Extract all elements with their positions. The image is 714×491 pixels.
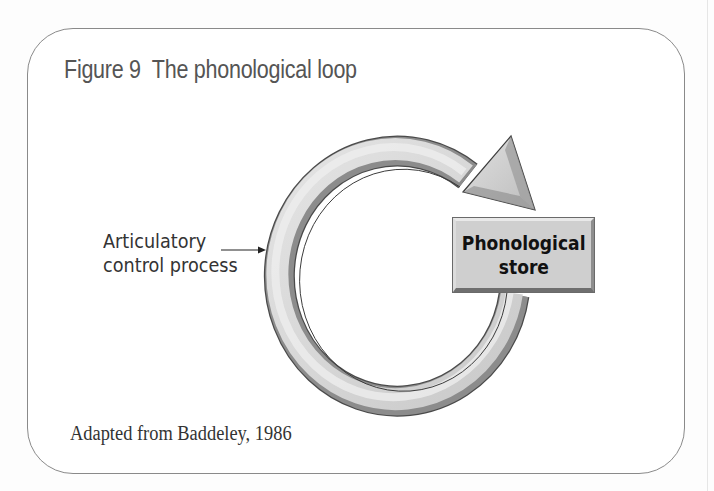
label-line-2: control process bbox=[103, 253, 238, 277]
phonological-store-box: Phonological store bbox=[453, 218, 594, 292]
figure-source-caption: Adapted from Baddeley, 1986 bbox=[70, 422, 292, 445]
label-line-1: Articulatory bbox=[103, 229, 238, 253]
articulatory-control-process-label: Articulatory control process bbox=[103, 229, 238, 277]
store-line-2: store bbox=[498, 255, 548, 279]
store-line-1: Phonological bbox=[462, 231, 586, 255]
